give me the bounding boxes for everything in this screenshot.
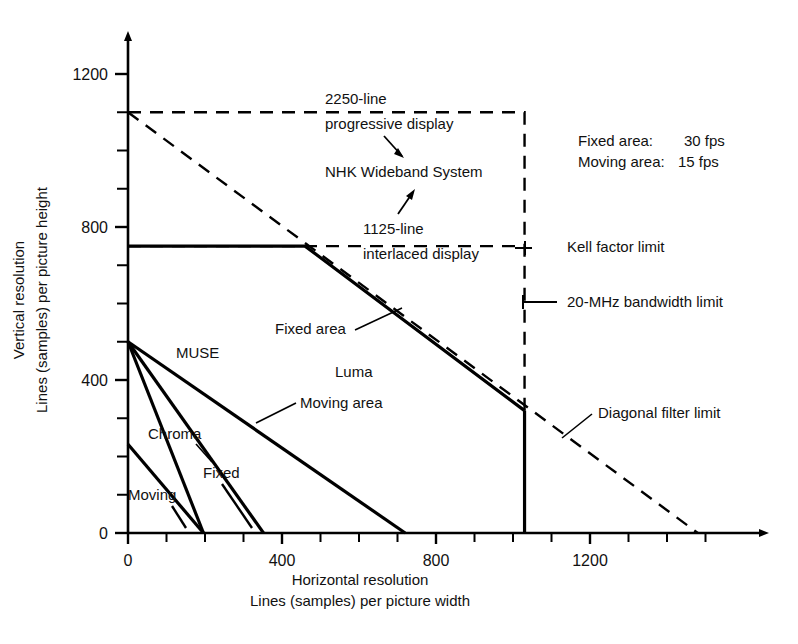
label-moving: Moving [128, 486, 176, 503]
axes [128, 40, 760, 533]
label-moving-area: Moving area [300, 394, 383, 411]
x-axis-title-line1: Horizontal resolution [292, 571, 429, 588]
label-fixed-area: Fixed area [275, 320, 347, 337]
fps-note: Fixed area: 30 fps Moving area: 15 fps [578, 132, 725, 170]
note-fixed-area-fps-value: 30 fps [684, 132, 725, 149]
y-axis-ticks [115, 74, 128, 533]
x-tick-label-1200: 1200 [572, 552, 608, 569]
x-axis-tick-labels: 04008001200 [124, 552, 608, 569]
x-axis-ticks [128, 533, 706, 544]
resolution-chart: 04008001200 04008001200 [0, 0, 798, 644]
label-nhk-wideband-system: NHK Wideband System [325, 163, 483, 180]
y-tick-label-800: 800 [81, 219, 108, 236]
label-chroma: Chroma [148, 425, 202, 442]
x-tick-label-800: 800 [423, 552, 450, 569]
y-tick-label-0: 0 [99, 525, 108, 542]
x-axis-title-line2: Lines (samples) per picture width [250, 592, 470, 609]
label-kell-factor-limit: Kell factor limit [567, 238, 665, 255]
x-tick-label-0: 0 [124, 552, 133, 569]
pointer-nhk-wideband-head [406, 189, 415, 200]
y-tick-label-400: 400 [81, 372, 108, 389]
label-20-mhz-bandwidth-limit: 20-MHz bandwidth limit [567, 293, 724, 310]
label-progressive-display: progressive display [325, 115, 454, 132]
pointer-fixed [222, 484, 252, 528]
label-luma: Luma [335, 363, 373, 380]
pointer-fixed-area [355, 308, 402, 330]
y-tick-label-1200: 1200 [72, 66, 108, 83]
label-2250-line: 2250-line [325, 90, 387, 107]
pointer-moving-area [256, 403, 296, 423]
label-diagonal-filter-limit: Diagonal filter limit [598, 404, 721, 421]
label-fixed: Fixed [203, 464, 240, 481]
y-axis-title-line2: Lines (samples) per picture height [33, 186, 50, 413]
pointer-diagonal-filter [562, 414, 592, 438]
label-1125-line: 1125-line [363, 220, 424, 237]
x-tick-label-400: 400 [269, 552, 296, 569]
y-axis-tick-labels: 04008001200 [72, 66, 108, 542]
note-moving-area-fps-label: Moving area: [578, 153, 665, 170]
label-interlaced-display: interlaced display [363, 245, 479, 262]
label-muse: MUSE [176, 344, 219, 361]
y-axis-title-line1: Vertical resolution [10, 241, 27, 359]
note-fixed-area-fps-label: Fixed area: [578, 132, 653, 149]
figure-container: 04008001200 04008001200 [0, 0, 798, 644]
note-moving-area-fps-value: 15 fps [678, 153, 719, 170]
annotations-layer: 2250-lineprogressive displayNHK Wideband… [128, 90, 724, 503]
